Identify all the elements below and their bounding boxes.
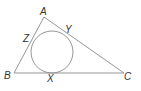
- incircle: [31, 31, 73, 73]
- tangent-label-y: Y: [65, 24, 73, 35]
- tangent-label-x: X: [46, 73, 54, 84]
- vertex-label-b: B: [4, 70, 11, 81]
- triangle-incircle-diagram: A B C X Y Z: [0, 0, 141, 91]
- tangent-label-z: Z: [22, 33, 30, 44]
- vertex-label-a: A: [39, 6, 47, 17]
- vertex-label-c: C: [124, 71, 132, 82]
